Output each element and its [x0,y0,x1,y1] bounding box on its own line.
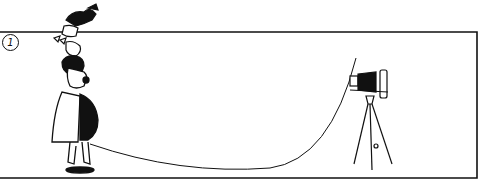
camera-on-tripod [350,70,392,170]
panel-number-badge: 1 [2,34,19,51]
child-figure [54,4,98,56]
comic-panel [0,0,496,187]
camera-cable [90,58,356,169]
man-figure [52,56,98,173]
